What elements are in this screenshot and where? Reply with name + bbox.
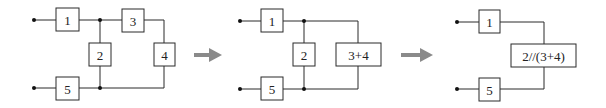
block-4: 4: [154, 43, 175, 66]
block-label: 5: [486, 83, 493, 98]
wire: [283, 21, 358, 43]
block-1: 1: [261, 9, 283, 32]
diagram-step2: 1 2//(3+4) 5: [455, 10, 576, 101]
block-5: 5: [261, 77, 283, 100]
block-1: 1: [56, 8, 79, 31]
block-label: 1: [486, 15, 493, 30]
block-5: 5: [56, 77, 79, 100]
junction-node: [98, 86, 102, 90]
input-terminal: [455, 87, 459, 91]
block-3: 3: [122, 9, 144, 32]
input-terminal: [238, 87, 242, 91]
block-2: 2: [293, 43, 315, 66]
block-label: 2: [97, 48, 104, 63]
block-label: 1: [64, 13, 71, 28]
input-terminal: [455, 20, 459, 24]
block-label: 1: [269, 14, 276, 29]
arrow-right-icon: [194, 48, 222, 62]
block-2-parallel-3-plus-4: 2//(3+4): [511, 44, 576, 67]
wire: [144, 20, 164, 43]
wire: [79, 66, 164, 88]
diagram-step1: 1 2 3+4 5: [238, 9, 381, 100]
wire: [283, 66, 358, 89]
junction-node: [302, 87, 306, 91]
block-label: 4: [161, 48, 168, 63]
block-label: 3: [130, 14, 137, 29]
input-terminal: [238, 19, 242, 23]
junction-node: [302, 19, 306, 23]
block-label: 2: [301, 48, 308, 63]
block-label: 3+4: [348, 48, 369, 63]
diagram-original: 1 2 3 4 5: [32, 8, 175, 100]
wire: [500, 22, 544, 44]
block-label: 5: [64, 82, 71, 97]
junction-node: [98, 18, 102, 22]
block-3-plus-4: 3+4: [336, 43, 381, 66]
wire: [500, 67, 544, 89]
arrow-right-icon: [401, 48, 433, 62]
block-1: 1: [479, 10, 500, 33]
input-terminal: [32, 18, 36, 22]
block-5: 5: [479, 78, 500, 101]
block-diagram-reduction: 1 2 3 4 5: [0, 0, 606, 108]
block-label: 5: [269, 82, 276, 97]
input-terminal: [32, 86, 36, 90]
block-2: 2: [89, 43, 111, 66]
block-label: 2//(3+4): [522, 49, 565, 64]
